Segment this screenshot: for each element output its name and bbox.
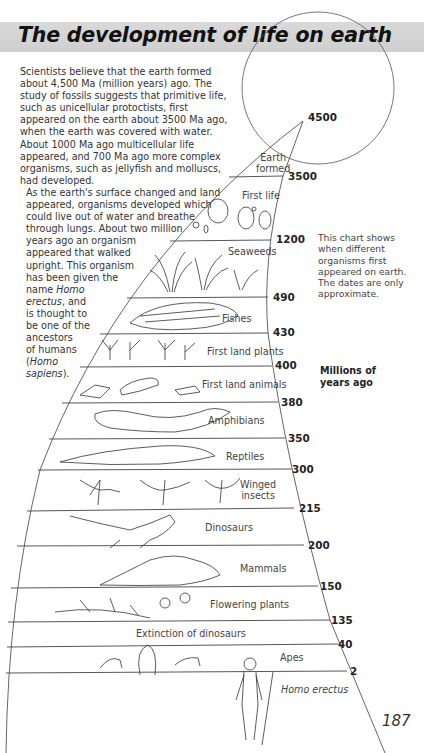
era-boundaries <box>6 176 347 673</box>
reptile-icon <box>60 446 215 465</box>
era-flowering-plants: Flowering plants <box>210 599 289 610</box>
timeline-left-edge <box>6 121 303 753</box>
tick-3500: 3500 <box>288 170 317 182</box>
tick-400: 400 <box>275 359 297 371</box>
tick-135: 135 <box>331 614 353 626</box>
seaweed-icon <box>150 252 258 292</box>
page-number: 187 <box>382 712 411 730</box>
era-earth-formed: Earth formed <box>256 152 290 174</box>
era-reptiles: Reptiles <box>226 451 264 462</box>
tick-40: 40 <box>338 638 352 650</box>
tick-350: 350 <box>288 432 310 444</box>
tick-380: 380 <box>281 396 303 408</box>
chart-note: This chart shows when different organism… <box>318 232 408 300</box>
era-extinction-of-dinosaurs: Extinction of dinosaurs <box>136 628 246 639</box>
era-first-land-animals: First land animals <box>202 379 287 390</box>
tick-150: 150 <box>320 580 342 592</box>
era-fishes: Fishes <box>222 313 251 324</box>
first-life-cells-icon <box>193 199 271 233</box>
era-homo-erectus: Homo erectus <box>281 684 348 695</box>
winged-insects-icon <box>80 478 240 505</box>
mammal-icon <box>100 556 220 586</box>
era-apes: Apes <box>280 652 304 663</box>
era-seaweeds: Seaweeds <box>228 246 277 257</box>
tick-490: 490 <box>273 291 295 303</box>
era-first-life: First life <box>242 190 280 201</box>
dinosaur-icon <box>70 515 175 548</box>
era-winged-insects: Winged insects <box>240 479 276 501</box>
apes-icon <box>100 645 200 675</box>
era-dinosaurs: Dinosaurs <box>205 522 253 533</box>
tick-200: 200 <box>308 539 330 551</box>
era-first-land-plants: First land plants <box>207 346 283 357</box>
tick-2: 2 <box>350 665 357 677</box>
tick-1200: 1200 <box>276 233 305 245</box>
tick-300: 300 <box>292 463 314 475</box>
tick-430: 430 <box>273 326 295 338</box>
earth-circle-icon <box>242 12 394 164</box>
tick-4500: 4500 <box>308 111 337 123</box>
era-amphibians: Amphibians <box>208 415 264 426</box>
axis-units-label: Millions of years ago <box>320 365 390 388</box>
era-mammals: Mammals <box>240 563 286 574</box>
land-plants-icon <box>102 340 195 360</box>
land-animals-icon <box>80 378 200 398</box>
flowering-plant-icon <box>55 593 190 618</box>
tick-215: 215 <box>299 502 321 514</box>
